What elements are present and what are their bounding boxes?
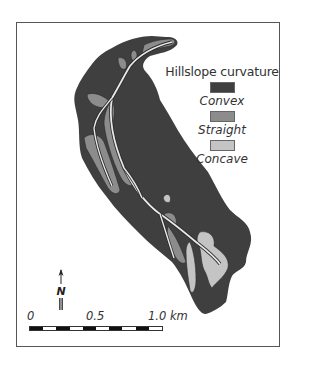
scale-label-half: 0.5	[86, 309, 104, 323]
legend-title: Hillslope curvature	[160, 64, 284, 79]
scale-label-end: 1.0 km	[148, 309, 188, 323]
straight-swatch	[210, 111, 235, 122]
legend-item-convex: Convex	[160, 82, 284, 108]
scale-bar	[29, 326, 163, 331]
legend-label: Convex	[160, 94, 284, 108]
legend-item-straight: Straight	[160, 111, 284, 137]
map-legend: Hillslope curvature Convex Straight Conc…	[160, 64, 284, 166]
legend-label: Concave	[160, 152, 284, 166]
scale-label-0: 0	[27, 309, 34, 323]
concave-swatch	[210, 140, 235, 151]
legend-label: Straight	[160, 123, 284, 137]
north-label: N	[56, 285, 65, 298]
legend-item-concave: Concave	[160, 140, 284, 166]
north-arrow-icon: N	[55, 268, 67, 312]
convex-swatch	[210, 82, 235, 93]
